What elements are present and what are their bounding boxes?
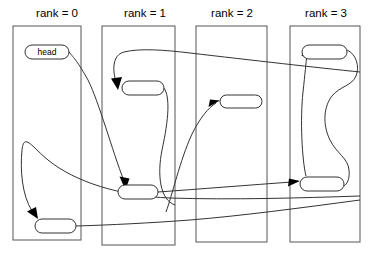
- diagram-canvas: rank = 0 rank = 1 rank = 2 rank = 3: [0, 0, 374, 256]
- node-rank3-bottom-shape[interactable]: [300, 177, 344, 191]
- node-rank3-bottom[interactable]: [300, 177, 344, 191]
- node-rank0-bottom[interactable]: [35, 219, 76, 233]
- node-rank3-top-shape[interactable]: [302, 45, 347, 59]
- rank-box-1: [102, 26, 175, 245]
- rank-label-0: rank = 0: [36, 7, 78, 19]
- rank-linked-list-diagram: rank = 0 rank = 1 rank = 2 rank = 3: [0, 0, 374, 256]
- rank-label-2: rank = 2: [211, 7, 253, 19]
- node-rank3-top[interactable]: [302, 45, 347, 59]
- node-rank1-top-shape[interactable]: [122, 81, 164, 95]
- node-rank1-bottom-shape[interactable]: [118, 185, 158, 199]
- rank-labels: rank = 0 rank = 1 rank = 2 rank = 3: [36, 7, 347, 19]
- node-head-label: head: [38, 47, 57, 57]
- node-rank2-mid[interactable]: [220, 95, 262, 108]
- rank-box-2: [196, 26, 267, 242]
- node-rank2-mid-shape[interactable]: [220, 95, 262, 108]
- node-head[interactable]: head: [25, 45, 69, 59]
- rank-label-1: rank = 1: [124, 7, 166, 19]
- node-rank0-bottom-shape[interactable]: [35, 219, 76, 233]
- node-rank1-top[interactable]: [122, 81, 164, 95]
- rank-label-3: rank = 3: [305, 7, 347, 19]
- node-rank1-bottom[interactable]: [118, 185, 158, 199]
